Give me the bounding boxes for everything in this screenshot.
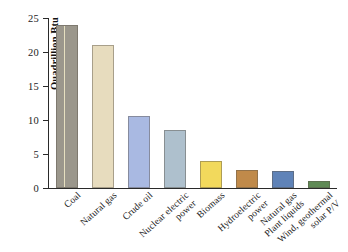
bar-0 <box>56 25 78 188</box>
bar-4 <box>200 161 222 188</box>
y-tick-label: 10 <box>28 115 39 126</box>
y-tick-label: 20 <box>28 47 39 58</box>
bar-1 <box>92 45 114 188</box>
bar-2 <box>128 116 150 188</box>
bar-6 <box>272 171 294 188</box>
x-label-2: Crude oil <box>120 190 154 222</box>
x-label-1: Natural gas <box>78 190 119 228</box>
x-label-line1: Crude oil <box>120 189 155 222</box>
x-label-4: Biomass <box>195 190 227 220</box>
y-tick-label: 15 <box>28 81 39 92</box>
x-label-line1: Coal <box>61 189 82 210</box>
y-tick-label: 5 <box>34 149 39 160</box>
x-label-0: Coal <box>62 190 83 210</box>
bar-7 <box>308 181 330 188</box>
bar-5 <box>236 170 258 188</box>
chart-figure: Quadrillion Btu 0510152025 CoalNatural g… <box>0 0 348 252</box>
x-label-line1: Natural gas <box>77 189 118 227</box>
y-tick-label: 25 <box>28 13 39 24</box>
x-axis-labels: CoalNatural gasCrude oilNuclear electric… <box>49 190 337 252</box>
x-label-line1: Biomass <box>194 189 226 220</box>
y-tick-label: 0 <box>34 183 39 194</box>
bar-series <box>49 18 337 188</box>
bar-highlight-stripe <box>64 26 66 187</box>
bar-3 <box>164 130 186 188</box>
